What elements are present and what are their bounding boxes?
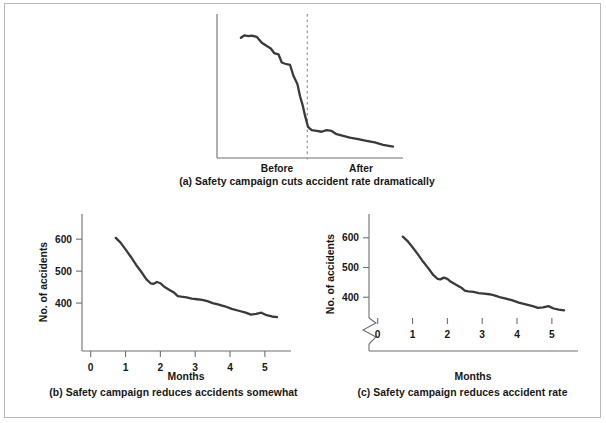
chart-c-y-axis-title: No. of accidents	[325, 234, 336, 314]
chart-b-axes	[82, 214, 291, 351]
x-tick-label: 1	[123, 362, 129, 373]
chart-c-data-line	[403, 237, 564, 311]
x-tick-label: 3	[479, 329, 485, 340]
x-tick-label: 0	[88, 362, 94, 373]
chart-panel-b: 400500600 012345 Months No. of accidents	[35, 210, 305, 385]
x-tick-label: 0	[375, 329, 381, 340]
y-tick-label: 500	[55, 266, 72, 277]
x-tick-label: 1	[410, 329, 416, 340]
y-tick-label: 400	[55, 298, 72, 309]
y-tick-label: 600	[55, 234, 72, 245]
x-tick-label: 5	[549, 329, 555, 340]
chart-c-x-axis-title: Months	[455, 371, 492, 382]
x-tick-label: 2	[445, 329, 451, 340]
chart-a-label-before: Before	[261, 163, 294, 174]
chart-c-caption: (c) Safety campaign reduces accident rat…	[330, 387, 595, 398]
chart-panel-a: Before After	[195, 6, 411, 174]
chart-c-y-ticks: 400500600	[342, 232, 369, 302]
chart-a-svg: Before After	[195, 6, 411, 174]
chart-c-x-ticks: 012345	[375, 318, 555, 340]
chart-a-data-line	[241, 35, 393, 146]
y-tick-label: 500	[342, 262, 359, 273]
chart-b-caption: (b) Safety campaign reduces accidents so…	[32, 387, 315, 398]
chart-b-x-ticks: 012345	[88, 351, 268, 373]
chart-a-caption: (a) Safety campaign cuts accident rate d…	[172, 176, 442, 187]
chart-c-svg: 400500600 012345 Months No. of accidents	[322, 210, 592, 385]
chart-b-y-ticks: 400500600	[55, 234, 82, 309]
chart-b-data-line	[116, 238, 277, 317]
y-tick-label: 600	[342, 232, 359, 243]
chart-b-x-axis-title: Months	[168, 371, 205, 382]
x-tick-label: 2	[158, 362, 164, 373]
chart-b-y-axis-title: No. of accidents	[38, 242, 49, 322]
x-tick-label: 4	[227, 362, 233, 373]
x-tick-label: 4	[514, 329, 520, 340]
figure-root: Before After (a) Safety campaign cuts ac…	[0, 0, 606, 423]
chart-b-svg: 400500600 012345 Months No. of accidents	[35, 210, 305, 385]
chart-panel-c: 400500600 012345 Months No. of accidents	[322, 210, 592, 385]
x-tick-label: 5	[262, 362, 268, 373]
chart-a-label-after: After	[349, 163, 373, 174]
chart-c-axes	[363, 214, 578, 351]
y-tick-label: 400	[342, 292, 359, 303]
